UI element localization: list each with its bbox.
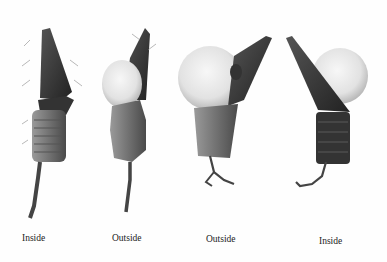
label-leg-4: Inside <box>319 236 342 246</box>
legs-illustration <box>0 0 387 262</box>
label-leg-1: Inside <box>22 233 45 243</box>
label-leg-2: Outside <box>112 233 142 243</box>
leg-2-outside <box>102 28 156 212</box>
label-leg-3: Outside <box>206 234 236 244</box>
leg-4-inside <box>286 36 368 186</box>
illustration-plate: Inside Outside Outside Inside <box>0 0 387 262</box>
leg-1-inside <box>22 28 82 218</box>
leg-3-outside <box>178 36 272 186</box>
